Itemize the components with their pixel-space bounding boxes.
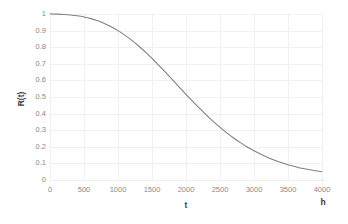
x-axis-tick-label: 2500 [212,186,229,194]
reliability-chart: 00.10.20.30.40.50.60.70.80.91 0500100015… [0,0,348,224]
y-axis-title: R(t) [16,92,26,107]
y-axis-tick-label: 0.9 [36,27,46,35]
y-axis-tick-label: 0.3 [36,126,46,134]
x-axis-tick-label: 2000 [178,186,195,194]
y-axis-tick-label: 0.2 [36,143,46,151]
y-axis-tick-label: 0.1 [36,159,46,167]
plot-area [50,14,322,180]
x-axis-tick-label: 500 [78,186,91,194]
y-axis-tick-label: 0.7 [36,60,46,68]
y-axis-tick-label: 0.8 [36,43,46,51]
y-axis-tick-labels: 00.10.20.30.40.50.60.70.80.91 [0,0,46,224]
x-axis-tick-label: 0 [48,186,52,194]
x-axis-tick-label: 3000 [246,186,263,194]
y-axis-tick-label: 0.4 [36,110,46,118]
x-axis-tick-label: 3500 [280,186,297,194]
x-axis-unit-label: h [320,197,325,207]
x-axis-tick-label: 1500 [144,186,161,194]
y-axis-tick-label: 0.5 [36,93,46,101]
reliability-curve [50,14,322,180]
y-axis-tick-label: 1 [42,10,46,18]
x-axis-tick-label: 1000 [110,186,127,194]
gridline-horizontal [50,180,322,181]
y-axis-tick-label: 0.6 [36,76,46,84]
gridline-vertical [322,14,323,180]
x-axis-title: t [185,200,188,210]
x-axis-tick-label: 4000 [314,186,331,194]
y-axis-tick-label: 0 [42,176,46,184]
